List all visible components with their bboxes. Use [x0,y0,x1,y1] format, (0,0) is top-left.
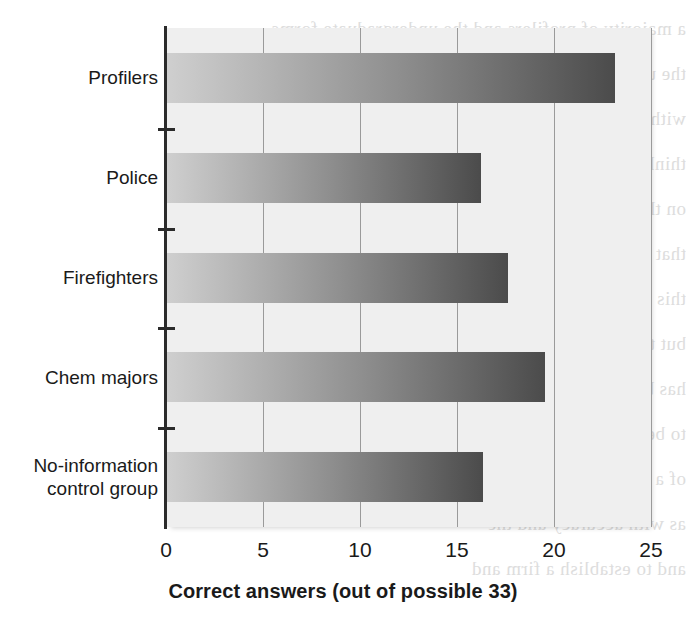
category-label-firefighters: Firefighters [0,266,158,289]
y-axis-line [164,26,167,529]
category-label-line: Chem majors [0,366,158,389]
category-label-chem-majors: Chem majors [0,366,158,389]
y-axis-tick-2 [158,228,175,231]
x-tick-label-20: 20 [524,538,584,562]
category-label-no-information-control-group: No-informationcontrol group [0,454,158,500]
category-label-profilers: Profilers [0,66,158,89]
bar-police [167,153,481,203]
category-label-line: Police [0,166,158,189]
y-axis-tick-4 [158,427,175,430]
category-label-line: control group [0,477,158,500]
bar-no-information-control-group [167,452,483,502]
category-label-line: Profilers [0,66,158,89]
category-label-police: Police [0,166,158,189]
x-tick-label-0: 0 [136,538,196,562]
x-tick-label-5: 5 [233,538,293,562]
bar-firefighters [167,253,508,303]
x-axis-title: Correct answers (out of possible 33) [0,580,686,603]
category-label-line: No-information [0,454,158,477]
bar-chart-figure: ProfilersPoliceFirefightersChem majorsNo… [0,0,686,637]
x-tick-label-10: 10 [330,538,390,562]
y-axis-tick-3 [158,327,175,330]
bar-chem-majors [167,352,545,402]
x-tick-label-25: 25 [621,538,681,562]
y-axis-tick-1 [158,128,175,131]
x-tick-label-15: 15 [427,538,487,562]
gridline-25 [651,28,652,527]
category-axis-labels: ProfilersPoliceFirefightersChem majorsNo… [0,0,158,637]
category-label-line: Firefighters [0,266,158,289]
bar-profilers [167,53,615,103]
